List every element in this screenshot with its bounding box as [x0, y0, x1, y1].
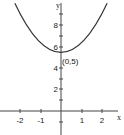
y-tick-label: 8: [54, 21, 59, 30]
x-tick-label: 2: [100, 116, 105, 125]
x-axis-label: x: [117, 113, 121, 122]
vertex-label: (0,5): [62, 57, 79, 66]
y-tick-label: 4: [54, 64, 59, 73]
x-tick-label: 1: [80, 116, 85, 125]
y-tick-label: 2: [54, 85, 59, 94]
parabola-chart: -2 -1 1 2 2 4 6 8 y x (0,5): [0, 0, 124, 135]
x-tick-label: -1: [37, 116, 45, 125]
y-tick-label: 6: [54, 43, 59, 52]
x-tick-label: -2: [16, 116, 24, 125]
y-axis-label: y: [56, 1, 60, 10]
